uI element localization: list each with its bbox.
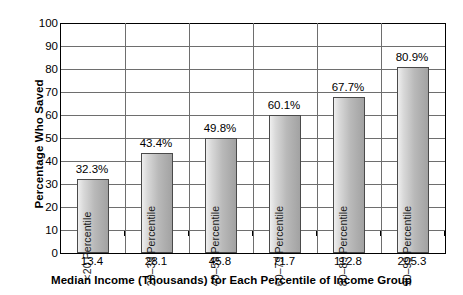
bar[interactable]: <20 Percentile	[77, 179, 109, 253]
category-separator	[317, 23, 318, 253]
x-tick-label: 28.1	[145, 255, 167, 267]
y-tick-label: 0	[28, 247, 58, 259]
bar-value-label: 67.7%	[318, 81, 378, 93]
bar-chart: Percentage Who Saved 0102030405060708090…	[0, 0, 463, 295]
bar-value-label: 60.1%	[254, 99, 314, 111]
bar[interactable]: 90–99 Percentile	[397, 67, 429, 253]
x-tick-mark	[188, 231, 189, 236]
y-tick-label: 80	[28, 63, 58, 75]
y-tick-label: 70	[28, 86, 58, 98]
x-tick-mark	[380, 231, 381, 236]
x-tick-label: 205.3	[398, 255, 427, 267]
x-tick-label: 71.7	[273, 255, 295, 267]
x-tick-mark	[60, 231, 61, 236]
bar[interactable]: 80–89 Percentile	[333, 97, 365, 253]
y-tick-label: 50	[28, 132, 58, 144]
x-tick-label: 13.4	[81, 255, 103, 267]
bar-value-label: 80.9%	[382, 51, 442, 63]
bar[interactable]: 60–79 Percentile	[269, 115, 301, 253]
x-tick-label: 112.8	[334, 255, 362, 267]
y-tick-label: 30	[28, 178, 58, 190]
bar-value-label: 49.8%	[190, 122, 250, 134]
plot-frame-right	[445, 23, 446, 254]
bar[interactable]: 20–39 Percentile	[141, 153, 173, 253]
y-tick-label: 60	[28, 109, 58, 121]
x-tick-mark	[316, 231, 317, 236]
x-tick-label: 45.8	[209, 255, 231, 267]
category-separator	[253, 23, 254, 253]
bar[interactable]: 40–59 Percentile	[205, 138, 237, 253]
bar-value-label: 43.4%	[126, 137, 186, 149]
x-tick-mark	[444, 231, 445, 236]
y-tick-label: 40	[28, 155, 58, 167]
x-tick-mark	[124, 231, 125, 236]
y-tick-label: 100	[28, 17, 58, 29]
x-axis-title: Median Income (Thousands) for Each Perce…	[0, 274, 463, 286]
y-axis-tick-labels: 0102030405060708090100	[28, 23, 58, 253]
bar-value-label: 32.3%	[62, 163, 122, 175]
y-tick-label: 20	[28, 201, 58, 213]
bar-category-label: <20 Percentile	[81, 212, 93, 281]
y-tick-label: 90	[28, 40, 58, 52]
x-tick-mark	[252, 231, 253, 236]
category-separator	[189, 23, 190, 253]
y-tick-label: 10	[28, 224, 58, 236]
